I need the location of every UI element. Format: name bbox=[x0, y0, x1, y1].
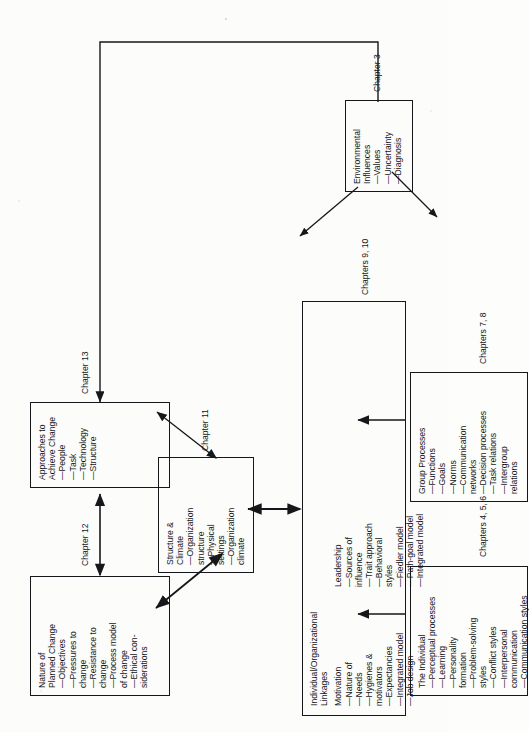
connector-environment-individual bbox=[300, 187, 358, 236]
box-items: —Values —Uncertainty —Diagnosis bbox=[372, 105, 403, 184]
box-environmental-influences[interactable]: Environmental Influences —Values —Uncert… bbox=[345, 100, 413, 192]
box-nature-of-planned-change[interactable]: Nature of Planned Change —Objectives —Pr… bbox=[30, 576, 170, 696]
caption-chapter-13: Chapter 13 bbox=[80, 351, 90, 394]
box-title: Approaches to Achieve Change bbox=[37, 407, 57, 480]
box-title: Environmental Influences bbox=[352, 105, 372, 184]
subgroup-heading: Motivation bbox=[333, 633, 343, 706]
box-items: —Objectives —Pressures to change —Resist… bbox=[57, 581, 149, 688]
box-structure-and-climate[interactable]: Structure & Climate —Organization struct… bbox=[158, 457, 254, 573]
subgroup-heading: Leadership bbox=[333, 514, 343, 587]
box-title: Nature of Planned Change bbox=[37, 581, 57, 688]
caption-chapters-4-5-6: Chapters 4, 5, 6 bbox=[478, 496, 488, 557]
caption-chapter-3: Chapter 3 bbox=[372, 54, 382, 92]
box-title: Group Processes bbox=[417, 377, 427, 494]
caption-chapters-9-10: Chapters 9, 10 bbox=[360, 239, 370, 295]
box-title: Structure & Climate bbox=[165, 462, 185, 565]
box-the-individual[interactable]: The Individual —Perceptual processes —Le… bbox=[410, 566, 528, 696]
box-group-processes[interactable]: Group Processes —Functions —Goals —Norms… bbox=[410, 372, 528, 502]
caption-chapters-7-8: Chapters 7, 8 bbox=[478, 312, 488, 364]
caption-chapter-12: Chapter 12 bbox=[80, 523, 90, 566]
box-approaches-to-achieve-change[interactable]: Approaches to Achieve Change —People —Ta… bbox=[30, 402, 170, 488]
box-items: —Organization structure —Physical settin… bbox=[185, 462, 246, 565]
box-title: Individual/Organizational Linkages bbox=[309, 306, 329, 706]
subgroup-items: —Nature of —Needs —Hygienes & motivators… bbox=[344, 633, 415, 706]
box-items: —People —Task —Technology —Structure bbox=[57, 407, 98, 480]
box-items: —Functions —Goals —Norms —Communication … bbox=[427, 377, 519, 494]
box-items: —Perceptual processes —Learning —Persona… bbox=[427, 571, 529, 688]
box-individual-organizational-linkages[interactable]: Individual/Organizational Linkages Motiv… bbox=[302, 301, 406, 716]
box-title: The Individual bbox=[417, 571, 427, 688]
caption-chapter-11: Chapter 11 bbox=[200, 409, 210, 451]
